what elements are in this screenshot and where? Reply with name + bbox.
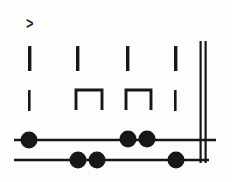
sketch-figure (0, 0, 232, 182)
note-node (168, 152, 185, 169)
tick-mark (174, 90, 177, 111)
double-barline (200, 41, 207, 163)
barline-stroke (200, 41, 202, 163)
tick-mark (28, 46, 31, 71)
caret-marker-icon: > (26, 15, 33, 31)
note-node (120, 131, 137, 148)
tick-mark (28, 90, 31, 111)
tick-mark (126, 46, 129, 71)
bracket-mark (126, 90, 151, 110)
tick-row-upper (28, 46, 177, 71)
note-node (70, 152, 87, 169)
note-node (139, 131, 156, 148)
tick-mark (174, 46, 177, 71)
staff-lines-group (14, 140, 216, 160)
tick-row-lower (28, 90, 177, 111)
note-node (21, 132, 38, 149)
note-nodes-group (21, 131, 185, 169)
bracket-mark (76, 90, 102, 110)
note-node (89, 152, 106, 169)
barline-stroke (205, 41, 207, 163)
drawing-canvas: > (0, 0, 232, 182)
tick-mark (76, 46, 79, 71)
